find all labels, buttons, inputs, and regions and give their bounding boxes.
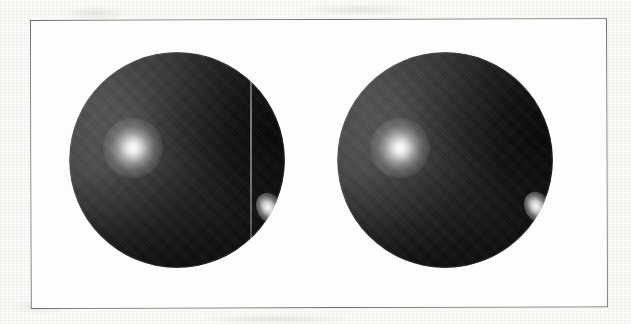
sphere-left-rim-light (69, 52, 285, 268)
figure-root (0, 0, 631, 324)
sphere-right-rim-light (337, 52, 553, 268)
sphere-left (69, 52, 285, 268)
sphere-right (337, 52, 553, 268)
